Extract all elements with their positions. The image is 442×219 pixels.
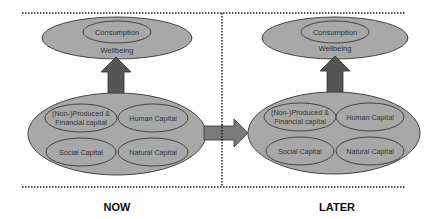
wellbeing-label-later: Wellbeing — [319, 44, 352, 53]
wellbeing-node-later: Consumption Wellbeing — [262, 17, 408, 59]
natural-capital-label-now: Natural Capital — [129, 148, 177, 157]
social-capital-label-later: Social Capital — [278, 147, 322, 156]
produced-capital-label-line1-later: (Non-)Produced & — [271, 108, 329, 117]
panel-later: Consumption Wellbeing (Non-)Produced & F… — [248, 17, 420, 213]
consumption-label-now: Consumption — [95, 28, 139, 37]
capitals-node-now: (Non-)Produced & Financial capital Human… — [28, 93, 206, 175]
produced-capital-label-line2-later: Financial capital — [274, 117, 326, 126]
consumption-label-later: Consumption — [313, 28, 357, 37]
panel-now: Consumption Wellbeing (Non-)Produced & F… — [28, 17, 206, 213]
produced-capital-label-line2-now: Financial capital — [55, 118, 107, 127]
wellbeing-node-now: Consumption Wellbeing — [42, 17, 192, 59]
period-label-now: NOW — [104, 201, 132, 213]
produced-capital-label-line1-now: (Non-)Produced & — [52, 109, 110, 118]
human-capital-label-later: Human Capital — [346, 113, 394, 122]
arrow-up-icon-later — [320, 56, 350, 95]
period-label-later: LATER — [319, 201, 355, 213]
arrow-right-icon — [204, 119, 248, 147]
natural-capital-label-later: Natural Capital — [346, 147, 394, 156]
capital-wellbeing-diagram: Consumption Wellbeing (Non-)Produced & F… — [0, 0, 442, 219]
wellbeing-label-now: Wellbeing — [101, 46, 134, 55]
capitals-node-later: (Non-)Produced & Financial capital Human… — [248, 92, 420, 174]
human-capital-label-now: Human Capital — [129, 114, 177, 123]
social-capital-label-now: Social Capital — [59, 148, 103, 157]
arrow-up-icon-now — [101, 57, 131, 96]
